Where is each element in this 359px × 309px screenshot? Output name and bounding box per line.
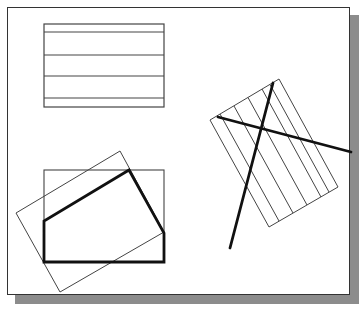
bold-crossing-lines xyxy=(218,83,351,248)
right-rotated-hatched-rectangle xyxy=(210,79,338,227)
top-hatched-rectangle xyxy=(44,24,164,107)
bottom-rotated-rectangle xyxy=(16,151,164,292)
bold-pentagon xyxy=(44,170,164,262)
